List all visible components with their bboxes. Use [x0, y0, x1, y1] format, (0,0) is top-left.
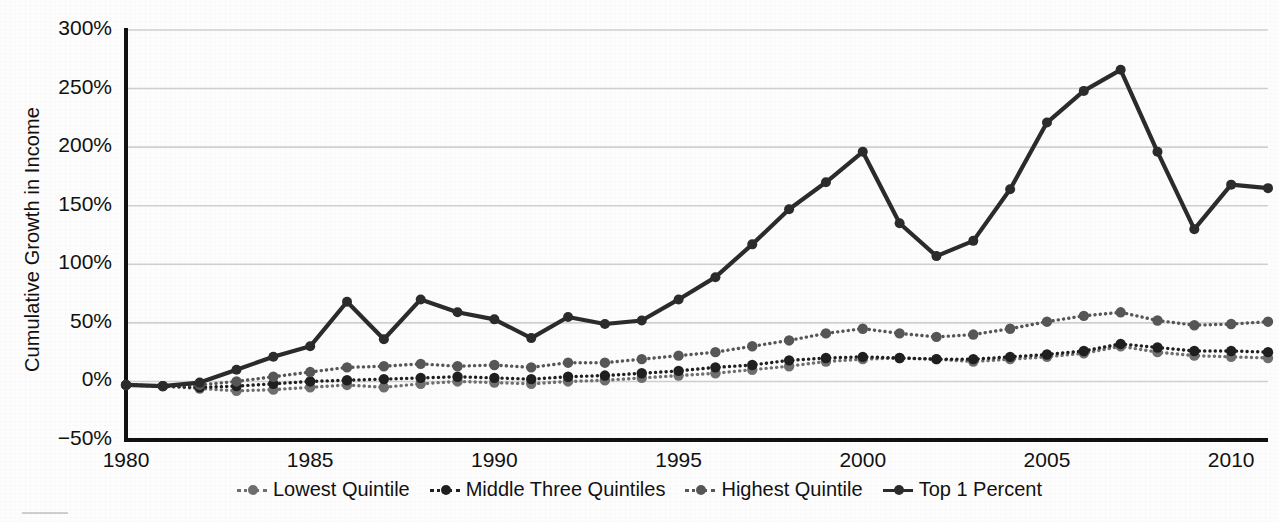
- data-point: [1115, 339, 1125, 349]
- data-point: [379, 361, 389, 371]
- data-point: [968, 329, 978, 339]
- data-point: [1005, 352, 1015, 362]
- data-point: [232, 365, 242, 375]
- data-point: [1042, 316, 1052, 326]
- data-point: [563, 372, 573, 382]
- data-point: [894, 328, 904, 338]
- data-point: [1005, 324, 1015, 334]
- legend-item-label: Middle Three Quintiles: [466, 478, 666, 501]
- data-point: [231, 376, 241, 386]
- data-point: [1152, 147, 1162, 157]
- data-point: [858, 147, 868, 157]
- data-point: [379, 374, 389, 384]
- data-point: [600, 370, 610, 380]
- data-point: [1226, 346, 1236, 356]
- data-point: [894, 353, 904, 363]
- data-point: [931, 332, 941, 342]
- data-point: [673, 366, 683, 376]
- data-point: [195, 378, 205, 388]
- data-point: [416, 373, 426, 383]
- series-middle-three-quintiles: [121, 339, 1273, 393]
- data-point: [1189, 320, 1199, 330]
- data-point: [858, 352, 868, 362]
- data-point: [305, 341, 315, 351]
- data-point: [453, 307, 463, 317]
- data-point: [305, 376, 315, 386]
- data-point: [1152, 315, 1162, 325]
- data-point: [821, 353, 831, 363]
- legend-item-label: Top 1 Percent: [919, 478, 1042, 501]
- data-point: [895, 218, 905, 228]
- data-point: [158, 381, 168, 391]
- data-point: [1189, 346, 1199, 356]
- data-point: [268, 372, 278, 382]
- data-point: [710, 362, 720, 372]
- data-point: [1079, 86, 1089, 96]
- data-point: [1116, 65, 1126, 75]
- data-point: [600, 357, 610, 367]
- data-point: [931, 251, 941, 261]
- data-point: [710, 272, 720, 282]
- legend-marker-icon: [685, 483, 715, 497]
- plot-area: [0, 0, 1279, 522]
- data-point: [747, 239, 757, 249]
- data-point: [784, 355, 794, 365]
- data-point: [784, 335, 794, 345]
- data-point: [1263, 347, 1273, 357]
- data-point: [784, 204, 794, 214]
- data-point: [416, 359, 426, 369]
- legend-marker-icon: [883, 483, 913, 497]
- data-point: [526, 333, 536, 343]
- data-point: [563, 312, 573, 322]
- data-point: [1226, 319, 1236, 329]
- data-point: [452, 372, 462, 382]
- data-point: [637, 354, 647, 364]
- legend-marker-icon: [237, 483, 267, 497]
- chart-legend: Lowest QuintileMiddle Three QuintilesHig…: [0, 478, 1279, 501]
- data-point: [305, 367, 315, 377]
- data-point: [1042, 118, 1052, 128]
- data-point: [821, 328, 831, 338]
- legend-item-middle-three-quintiles[interactable]: Middle Three Quintiles: [430, 478, 666, 501]
- data-point: [673, 350, 683, 360]
- data-point: [1263, 316, 1273, 326]
- data-point: [1005, 184, 1015, 194]
- data-point: [416, 294, 426, 304]
- data-point: [1079, 311, 1089, 321]
- data-point: [489, 373, 499, 383]
- chart-container: Cumulative Growth in Income 300%250%200%…: [0, 0, 1279, 522]
- data-point: [637, 316, 647, 326]
- axis-lines: [124, 28, 1268, 440]
- data-point: [342, 362, 352, 372]
- data-point: [342, 375, 352, 385]
- series-line: [126, 70, 1268, 386]
- data-point: [1189, 224, 1199, 234]
- data-point: [747, 360, 757, 370]
- legend-item-lowest-quintile[interactable]: Lowest Quintile: [237, 478, 410, 501]
- data-point: [821, 177, 831, 187]
- data-point: [489, 360, 499, 370]
- data-point: [637, 368, 647, 378]
- data-point: [489, 314, 499, 324]
- data-point: [526, 362, 536, 372]
- data-point: [121, 380, 131, 390]
- series-top-1-percent: [121, 65, 1273, 391]
- data-point: [268, 352, 278, 362]
- data-point: [968, 236, 978, 246]
- data-series-layer: [121, 65, 1273, 396]
- data-point: [526, 374, 536, 384]
- legend-item-highest-quintile[interactable]: Highest Quintile: [685, 478, 862, 501]
- data-point: [1079, 346, 1089, 356]
- data-point: [1152, 342, 1162, 352]
- data-point: [1042, 349, 1052, 359]
- legend-item-top-1-percent[interactable]: Top 1 Percent: [883, 478, 1042, 501]
- data-point: [968, 354, 978, 364]
- legend-item-label: Lowest Quintile: [273, 478, 410, 501]
- legend-item-label: Highest Quintile: [721, 478, 862, 501]
- data-point: [1226, 180, 1236, 190]
- data-point: [747, 341, 757, 351]
- data-point: [342, 297, 352, 307]
- data-point: [858, 324, 868, 334]
- data-point: [563, 357, 573, 367]
- data-point: [600, 319, 610, 329]
